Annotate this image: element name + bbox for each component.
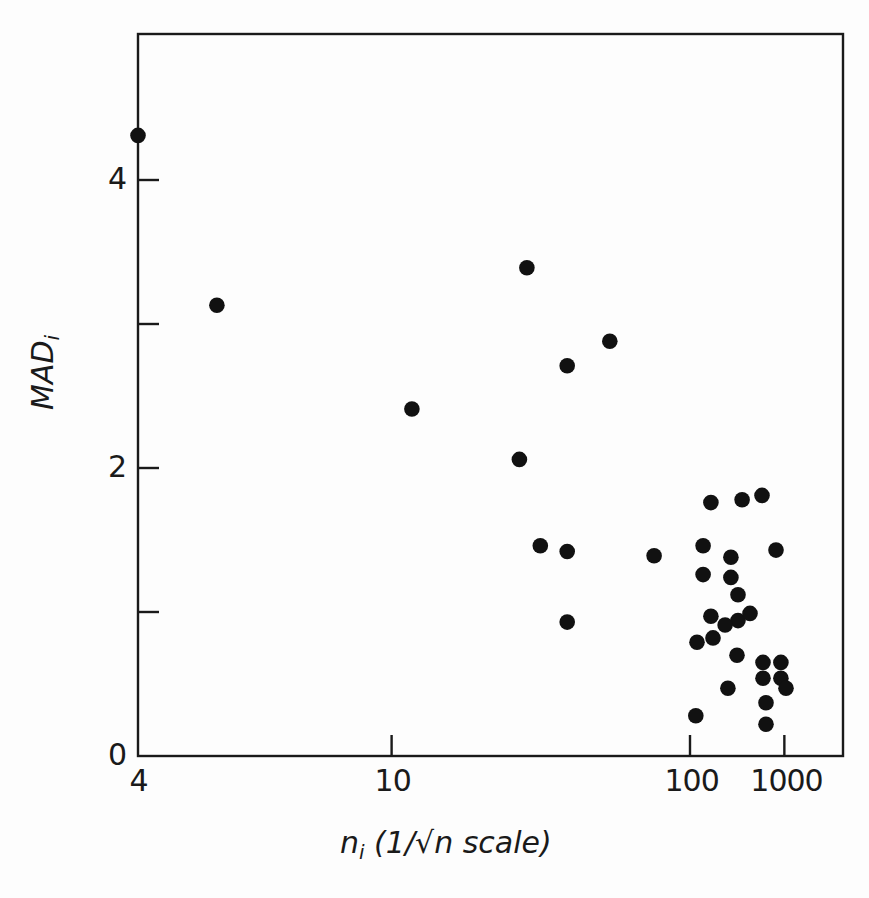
data-point (734, 492, 750, 508)
data-point (209, 298, 225, 314)
data-point (717, 617, 733, 633)
x-axis-title-main: n (340, 825, 359, 860)
x-tick-label: 4 (130, 766, 148, 796)
data-point (703, 609, 719, 625)
data-point (512, 452, 528, 468)
x-tick-label: 10 (375, 766, 411, 796)
x-tick-label: 1000 (750, 766, 822, 796)
data-point (559, 544, 575, 560)
data-point (723, 550, 739, 566)
x-axis-ticks (392, 735, 785, 756)
data-point (742, 606, 758, 622)
data-point (755, 670, 771, 686)
y-axis-ticks (138, 180, 159, 612)
data-point (758, 695, 774, 711)
data-point (559, 614, 575, 630)
x-axis-title: ni (1/√n scale) (340, 828, 552, 862)
y-tick-label: 4 (108, 164, 126, 194)
y-tick-label: 2 (108, 452, 126, 482)
data-point (755, 655, 771, 671)
data-point (695, 538, 711, 554)
data-point (720, 681, 736, 697)
data-point (758, 717, 774, 733)
data-point (768, 542, 784, 558)
data-point (778, 681, 794, 697)
data-point (723, 570, 739, 586)
data-point (130, 128, 146, 144)
data-point (646, 548, 662, 564)
data-points (130, 128, 794, 733)
x-tick-label: 100 (665, 766, 719, 796)
y-axis-title-main: MAD (25, 340, 60, 410)
data-point (559, 358, 575, 374)
data-point (688, 708, 704, 724)
data-point (689, 634, 705, 650)
data-point (773, 655, 789, 671)
data-point (754, 488, 770, 504)
data-point (519, 260, 535, 276)
data-point (703, 495, 719, 511)
x-axis-title-rest: (1/√n scale) (365, 825, 552, 860)
data-point (729, 647, 745, 663)
data-point (695, 567, 711, 583)
y-tick-label: 0 (108, 740, 126, 770)
y-axis-title-subscript: i (40, 335, 64, 341)
y-axis-title: MADi (28, 335, 62, 410)
data-point (602, 334, 618, 350)
data-point (730, 587, 746, 603)
data-point (404, 401, 420, 417)
data-point (705, 630, 721, 646)
data-point (533, 538, 549, 554)
